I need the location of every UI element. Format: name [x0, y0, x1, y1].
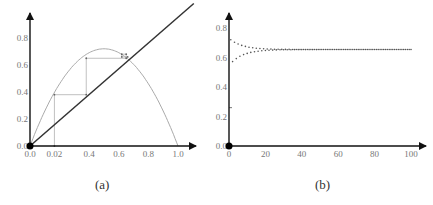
iterate-point: [277, 49, 279, 51]
cobweb-point: [127, 56, 129, 58]
iterate-point: [334, 49, 336, 51]
iterate-point: [288, 49, 290, 51]
iterate-point: [297, 49, 299, 51]
panel-b-origin-dot: [226, 143, 233, 150]
iterate-point: [296, 49, 298, 51]
iterate-point: [236, 58, 238, 60]
panel-a-x-tick-label: 0.6: [113, 149, 125, 159]
panel-a-y-tick-label: 0.4: [17, 87, 29, 97]
panel-a-x-tick-label: 0.8: [143, 149, 155, 159]
iterate-point: [372, 49, 374, 51]
iterate-point: [350, 49, 352, 51]
panel-b-x-tick-label: 100: [404, 149, 418, 159]
panel-a-x-tick-label: 0.02: [47, 149, 63, 159]
panel-b-y-tick-label: 0.4: [216, 82, 228, 92]
cobweb-point: [54, 94, 56, 96]
iterate-point: [314, 49, 316, 51]
cobweb-point: [85, 57, 87, 59]
panel-a-x-tick-label: 1.0: [172, 149, 184, 159]
iterate-point: [394, 49, 396, 51]
iterate-point: [385, 49, 387, 51]
iterate-point: [241, 45, 243, 47]
panel-b-x-tick-label: 80: [370, 149, 380, 159]
cobweb-point: [121, 56, 123, 58]
iterate-point: [401, 49, 403, 51]
iterate-point: [308, 49, 310, 51]
iterate-point: [365, 49, 367, 51]
iterate-point: [285, 49, 287, 51]
iterate-point: [245, 46, 247, 48]
iterate-point: [305, 49, 307, 51]
iterate-point: [307, 49, 309, 51]
iterate-point: [319, 49, 321, 51]
iterate-point: [328, 49, 330, 51]
iterate-point: [403, 49, 405, 51]
iterate-point: [237, 43, 239, 45]
panel-a-y-tick-label: 0.6: [17, 60, 29, 70]
iterate-point: [352, 49, 354, 51]
iterate-point: [357, 49, 359, 51]
cobweb-point: [121, 53, 123, 55]
iterate-point: [261, 50, 263, 52]
iterate-point: [230, 39, 232, 41]
cobweb-path: [54, 54, 127, 146]
iterate-point: [390, 49, 392, 51]
iterate-point: [374, 49, 376, 51]
iterate-point: [252, 47, 254, 49]
iterate-point: [265, 50, 267, 52]
iterate-point: [299, 49, 301, 51]
cobweb-point: [125, 53, 127, 55]
panel-b-x-tick-label: 0: [227, 149, 232, 159]
iterate-point: [405, 49, 407, 51]
iterate-point: [246, 53, 248, 55]
iterate-point: [332, 49, 334, 51]
iterate-point: [301, 49, 303, 51]
iterate-point: [376, 49, 378, 51]
iterate-point: [323, 49, 325, 51]
panel-b-x-tick-label: 20: [261, 149, 271, 159]
iterate-point: [321, 49, 323, 51]
iterate-point: [234, 41, 236, 43]
iterate-point: [310, 49, 312, 51]
iterate-point: [270, 48, 272, 50]
iterate-point: [345, 49, 347, 51]
panel-b-y-tick-label: 0.6: [216, 53, 228, 63]
iterate-point: [263, 48, 265, 50]
iterate-point: [286, 49, 288, 51]
iterate-point: [276, 49, 278, 51]
iterate-point: [255, 47, 257, 49]
panel-b-x-tick-label: 60: [334, 149, 344, 159]
iterate-point: [316, 49, 318, 51]
iterate-point: [381, 49, 383, 51]
iterate-point: [279, 49, 281, 51]
cobweb-point: [125, 57, 127, 59]
iterate-point: [367, 49, 369, 51]
iterate-point: [274, 48, 276, 50]
iterate-point: [248, 46, 250, 48]
iterate-point: [254, 51, 256, 53]
iterate-point: [330, 49, 332, 51]
iterate-point: [356, 49, 358, 51]
panel-a-origin-dot: [27, 143, 34, 150]
iterate-point: [337, 49, 339, 51]
iterate-point: [303, 49, 305, 51]
iterate-point: [392, 49, 394, 51]
iterate-point: [368, 49, 370, 51]
panel-b-x-tick-label: 40: [297, 149, 307, 159]
iterate-point: [268, 49, 270, 51]
iterate-point: [398, 49, 400, 51]
iterate-point: [396, 49, 398, 51]
panel-b-y-tick-label: 0.2: [216, 112, 227, 122]
iterate-point: [272, 49, 274, 51]
iterate-point: [294, 49, 296, 51]
iterate-point: [348, 49, 350, 51]
iterate-point: [239, 56, 241, 58]
iterate-point: [410, 49, 412, 51]
iterate-point: [388, 49, 390, 51]
panel-b-y-tick-label: 0.8: [216, 23, 228, 33]
iterate-point: [317, 49, 319, 51]
iterate-point: [292, 49, 294, 51]
iterate-point: [341, 49, 343, 51]
logistic-curve: [30, 49, 178, 146]
iterate-point: [290, 49, 292, 51]
